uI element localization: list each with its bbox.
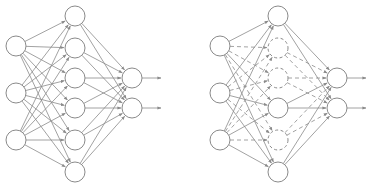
input-neuron — [210, 130, 230, 150]
hidden-neuron — [65, 130, 85, 150]
dropped-hidden-neuron — [268, 130, 288, 150]
connection — [82, 116, 125, 164]
connection — [26, 46, 64, 47]
connection — [229, 145, 269, 167]
connection — [84, 53, 122, 73]
hidden-neuron — [268, 162, 288, 182]
connection — [21, 54, 69, 130]
dropout-network — [210, 6, 366, 182]
hidden-neuron — [268, 98, 288, 118]
neural-network-dropout-diagram — [0, 0, 369, 185]
connection — [287, 83, 327, 103]
output-neuron — [327, 68, 347, 88]
connection — [22, 101, 68, 163]
connection — [283, 87, 331, 163]
standard-network — [6, 6, 161, 182]
connection — [25, 21, 65, 41]
connection — [285, 116, 330, 165]
dropped-connection — [230, 46, 267, 47]
connection — [226, 101, 272, 163]
connection — [26, 81, 65, 91]
connection — [22, 25, 68, 85]
output-neuron — [122, 68, 142, 88]
input-neuron — [6, 36, 26, 56]
dropped-hidden-neuron — [268, 68, 288, 88]
connection — [80, 25, 126, 99]
connection — [26, 95, 65, 105]
hidden-neuron — [65, 6, 85, 26]
dropped-connection — [225, 55, 272, 131]
output-neuron — [122, 98, 142, 118]
hidden-neuron — [65, 98, 85, 118]
hidden-neuron — [65, 162, 85, 182]
dropped-connection — [230, 81, 268, 91]
hidden-neuron — [268, 6, 288, 26]
connection — [229, 21, 268, 41]
output-neuron — [327, 98, 347, 118]
hidden-neuron — [65, 68, 85, 88]
dropped-hidden-neuron — [268, 38, 288, 58]
connection — [84, 83, 122, 103]
connection — [25, 145, 66, 167]
connection — [84, 83, 122, 103]
input-neuron — [210, 83, 230, 103]
connection — [283, 24, 331, 98]
connection — [224, 26, 273, 131]
connection — [20, 26, 70, 131]
dropped-connection — [287, 53, 327, 73]
input-neuron — [210, 36, 230, 56]
connection — [80, 87, 126, 163]
dropped-connection — [228, 55, 269, 87]
input-neuron — [6, 83, 26, 103]
hidden-neuron — [65, 38, 85, 58]
connection — [230, 96, 268, 106]
dropped-connection — [287, 83, 327, 103]
dropped-connection — [287, 113, 328, 135]
input-neuron — [6, 130, 26, 150]
connection — [226, 25, 271, 85]
